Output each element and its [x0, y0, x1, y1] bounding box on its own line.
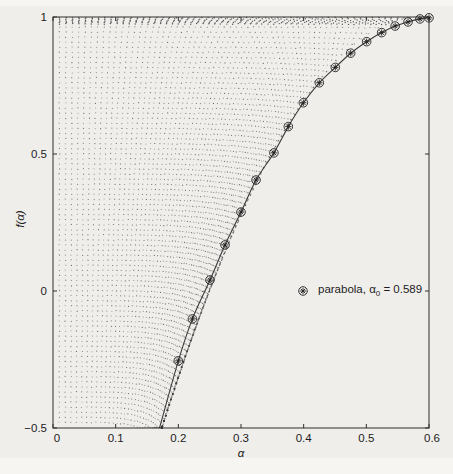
x-tick-label: 0 — [54, 432, 60, 444]
x-tick-label: 0.6 — [424, 432, 440, 444]
x-tick-label: 0.4 — [296, 432, 313, 444]
y-tick-label: 0.5 — [31, 148, 47, 160]
legend-label: parabola, α0 = 0.589 — [318, 283, 422, 298]
x-tick-label: 0.5 — [358, 432, 374, 444]
x-tick-label: 0.3 — [233, 432, 249, 444]
figure: 00.10.20.30.40.50.610.50−0.5 f(α) α para… — [0, 0, 453, 474]
y-tick-label: 1 — [41, 11, 47, 23]
y-axis-label: f(α) — [14, 197, 26, 241]
legend: parabola, α0 = 0.589 — [294, 282, 422, 300]
x-tick-label: 0.1 — [108, 432, 124, 444]
plot-area: 00.10.20.30.40.50.610.50−0.5 — [0, 0, 453, 474]
circled-asterisk-icon — [294, 282, 312, 300]
x-tick-label: 0.2 — [170, 432, 186, 444]
y-tick-label: −0.5 — [24, 422, 47, 434]
parabola-markers — [174, 14, 433, 366]
y-tick-label: 0 — [41, 285, 47, 297]
x-axis-label: α — [0, 447, 453, 459]
